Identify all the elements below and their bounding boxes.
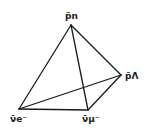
edge-top-right xyxy=(71,25,121,75)
vertex-label-right: p̄Λ xyxy=(125,71,138,81)
edge-top-bottom-right xyxy=(71,25,88,110)
edge-bottom-left-bottom-right xyxy=(19,109,88,110)
vertex-label-bottom-left: ν̄e⁻ xyxy=(10,114,27,124)
vertex-label-bottom-right: ν̄μ⁻ xyxy=(82,114,100,124)
vertex-label-top: p̄n xyxy=(65,11,78,21)
edge-top-bottom-left xyxy=(19,25,71,109)
